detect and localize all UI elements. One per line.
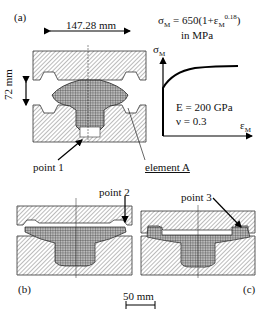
width-dimension-label: 147.28 mm xyxy=(66,20,116,31)
point1-label: point 1 xyxy=(33,162,64,173)
panel-c-label: (c) xyxy=(243,284,255,295)
point2-label: point 2 xyxy=(99,187,130,198)
elementA-label: element A xyxy=(145,162,190,173)
panel-a-dies xyxy=(33,45,146,142)
panel-a-label: (a) xyxy=(14,12,26,23)
figure-graphics xyxy=(0,0,273,319)
poisson-label: ν = 0.3 xyxy=(176,116,206,127)
flow-stress-equation: σM = 650(1+εM0.18) xyxy=(158,14,241,29)
point1-arrow xyxy=(58,140,82,160)
x-axis-label: εM xyxy=(240,120,251,134)
units-label: in MPa xyxy=(181,30,213,41)
panel-b-label: (b) xyxy=(18,284,31,295)
modulus-label: E = 200 GPa xyxy=(176,102,233,113)
point3-label: point 3 xyxy=(181,192,212,203)
height-dimension-label: 72 mm xyxy=(3,69,14,100)
y-axis-label: σM xyxy=(153,44,165,58)
scale-bar-label: 50 mm xyxy=(123,291,154,302)
panel-b-dies xyxy=(17,198,132,278)
panel-c-dies xyxy=(141,205,255,278)
scale-bar xyxy=(126,301,155,309)
forging-figure: (a) 147.28 mm 72 mm σM = 650(1+εM0.18) i… xyxy=(0,0,273,319)
